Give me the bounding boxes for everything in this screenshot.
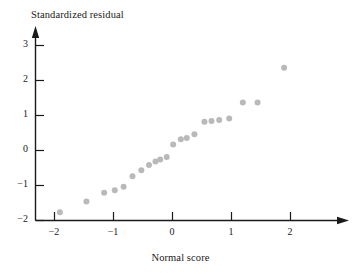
- y-tick-label: −2: [12, 213, 28, 224]
- y-tick-label: 1: [12, 108, 28, 119]
- x-tick-label: 0: [162, 226, 182, 237]
- y-tick-label: 2: [12, 73, 28, 84]
- x-tick-label: −2: [44, 226, 64, 237]
- axes-group: [32, 26, 349, 224]
- data-point: [101, 190, 107, 196]
- x-tick-label: 2: [280, 226, 300, 237]
- data-point: [178, 136, 184, 142]
- data-point: [209, 118, 215, 124]
- x-axis-arrow-icon: [337, 217, 349, 224]
- data-point: [112, 187, 118, 193]
- y-tick-label: 3: [12, 38, 28, 49]
- data-point: [121, 184, 127, 190]
- data-point: [57, 209, 63, 215]
- data-point: [216, 117, 222, 123]
- data-point: [157, 156, 163, 162]
- data-point: [138, 167, 144, 173]
- data-point: [164, 154, 170, 160]
- data-point: [255, 99, 261, 105]
- data-point: [184, 135, 190, 141]
- y-tick-label: 0: [12, 143, 28, 154]
- data-point: [191, 131, 197, 137]
- data-point: [83, 198, 89, 204]
- data-point: [201, 119, 207, 125]
- data-point: [170, 141, 176, 147]
- data-point: [146, 162, 152, 168]
- data-point: [281, 65, 287, 71]
- data-point: [226, 116, 232, 122]
- y-tick-label: −1: [12, 178, 28, 189]
- data-point: [129, 173, 135, 179]
- x-axis-title: Normal score: [0, 252, 361, 263]
- y-axis-arrow-icon: [32, 26, 39, 38]
- data-point: [240, 99, 246, 105]
- data-points-group: [57, 65, 287, 216]
- x-tick-label: 1: [221, 226, 241, 237]
- tick-marks-group: [36, 46, 291, 221]
- scatter-plot-figure: Standardized residual −2−10123 −2−1012 N…: [0, 0, 361, 276]
- x-tick-label: −1: [103, 226, 123, 237]
